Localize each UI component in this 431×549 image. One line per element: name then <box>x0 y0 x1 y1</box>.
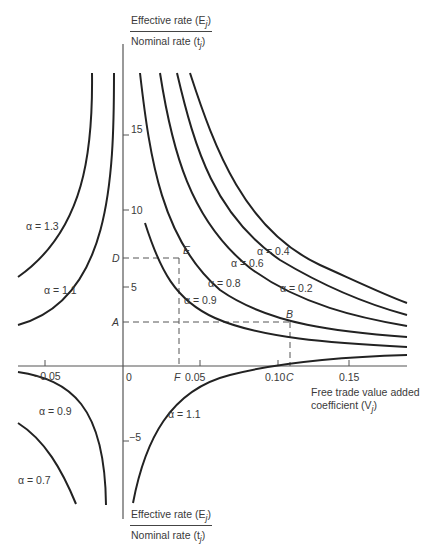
x-tick-neg0.05: −0.05 <box>34 371 61 382</box>
y-ticks <box>123 135 129 441</box>
point-D: D <box>112 253 120 264</box>
y-axis-label-top: Effective rate (Ej) Nominal rate (tj) <box>130 14 212 50</box>
x-tick-0.15: 0.15 <box>339 372 359 383</box>
label-alpha-0.9: α = 0.9 <box>184 295 217 306</box>
point-C: C <box>286 372 294 383</box>
diagram-canvas <box>0 0 431 549</box>
x-tick-0.10: 0.10 <box>265 372 285 383</box>
label-alpha-1.1-left: α = 1.1 <box>44 285 77 296</box>
y-tick-10: 10 <box>131 205 143 216</box>
point-E: E <box>183 245 190 256</box>
y-label-bottom-denominator-sub: j <box>200 534 202 544</box>
x-axis-label: Free trade value added coefficient (Vj) <box>311 386 420 416</box>
label-alpha-0.7: α = 0.7 <box>18 475 51 486</box>
y-label-bottom-numerator-sub: j <box>206 513 208 523</box>
label-alpha-0.9-bottom: α = 0.9 <box>39 406 72 417</box>
label-alpha-0.4: α = 0.4 <box>257 246 290 257</box>
point-F: F <box>174 372 180 383</box>
y-tick-neg5: −5 <box>129 432 141 443</box>
y-label-top-numerator: Effective rate (E <box>131 14 206 26</box>
point-A: A <box>112 317 119 328</box>
x-label-line1: Free trade value added <box>311 386 420 399</box>
x-label-line2-sub: j <box>372 404 374 414</box>
y-axis-label-bottom: Effective rate (Ej) Nominal rate (tj) <box>130 508 212 544</box>
x-tick-0: 0 <box>126 372 132 383</box>
label-alpha-1.1-bottom: α = 1.1 <box>168 409 201 420</box>
label-alpha-0.8: α = 0.8 <box>208 278 241 289</box>
curve-alpha-1.3 <box>18 73 92 277</box>
point-B: B <box>286 309 293 320</box>
y-label-bottom-denominator: Nominal rate (t <box>131 529 200 541</box>
curve-alpha-0.7 <box>18 423 76 504</box>
y-tick-5: 5 <box>131 282 137 293</box>
label-alpha-0.6: α = 0.6 <box>231 258 264 269</box>
curve-alpha-0.2 <box>190 73 407 303</box>
y-tick-15: 15 <box>131 124 143 135</box>
curve-alpha-0.8 <box>140 73 407 337</box>
label-alpha-0.2: α = 0.2 <box>280 283 313 294</box>
y-label-bottom-numerator: Effective rate (E <box>131 508 206 520</box>
x-label-line2: coefficient (V <box>311 399 372 411</box>
y-label-top-denominator: Nominal rate (t <box>131 35 200 47</box>
y-label-top-numerator-sub: j <box>206 19 208 29</box>
label-alpha-1.3: α = 1.3 <box>26 221 59 232</box>
y-label-top-denominator-sub: j <box>200 40 202 50</box>
x-tick-0.05: 0.05 <box>185 372 205 383</box>
